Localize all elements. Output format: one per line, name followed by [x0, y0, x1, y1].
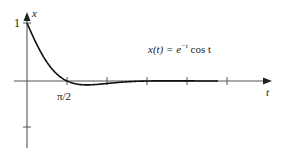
y-axis-label: x [31, 7, 37, 19]
x-axis-arrow-icon [263, 78, 272, 85]
x-axis-label: t [266, 86, 270, 98]
chart-canvas: 1 x t π/2 x(t) = e−t cos t [0, 0, 289, 155]
x-tick-label-pi-half: π/2 [57, 90, 71, 102]
equation-annotation: x(t) = e−t cos t [147, 42, 211, 56]
y-tick-label-one: 1 [14, 16, 20, 30]
y-axis-arrow-icon [24, 12, 31, 21]
